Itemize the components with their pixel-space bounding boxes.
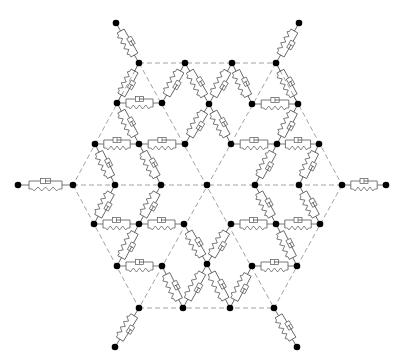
lattice-node [70, 182, 77, 189]
spring-dashpot-element [204, 101, 237, 147]
spring-icon [231, 72, 247, 98]
dashpot-icon [213, 270, 231, 299]
spring-icon [93, 190, 109, 215]
spring-dashpot-element [202, 261, 236, 311]
spring-icon [240, 146, 268, 150]
spring-icon [138, 190, 155, 215]
spring-dashpot-element [231, 138, 277, 151]
spring-icon [208, 113, 225, 139]
lattice-node [294, 344, 301, 351]
spring-dashpot-element [178, 261, 213, 311]
dashpot-icon [126, 97, 153, 102]
lattice-node [317, 221, 324, 228]
spring-dashpot-element [117, 97, 162, 110]
spring-icon [29, 187, 62, 191]
lattice-node [159, 263, 166, 270]
lattice-node [113, 20, 120, 27]
spring-dashpot-element [269, 305, 303, 350]
lattice-line [276, 63, 342, 185]
spring-dashpot-element [252, 98, 298, 111]
lattice-node [181, 221, 188, 228]
lattice-node [136, 60, 143, 67]
spring-icon [261, 106, 289, 110]
spring-dashpot-element [225, 263, 258, 311]
dashpot-icon [145, 194, 163, 220]
lattice-node [383, 182, 390, 189]
lattice-node [114, 263, 121, 270]
dashpot-icon [351, 179, 377, 184]
spring-dashpot-element [342, 179, 386, 192]
spring-dashpot-element [139, 138, 185, 151]
lattice-node [228, 141, 235, 148]
spring-dashpot-element [204, 60, 238, 107]
dashpot-icon [285, 218, 311, 223]
spring-dashpot-element [271, 20, 305, 66]
spring-dashpot-element [95, 138, 139, 151]
lattice-node [136, 305, 143, 312]
spring-dashpot-element [180, 101, 215, 147]
dashpot-icon [285, 138, 310, 143]
dashpot-icon [305, 190, 322, 216]
dashpot-icon [29, 179, 62, 184]
lattice-node [274, 141, 281, 148]
lattice-node [273, 60, 280, 67]
spring-icon [126, 268, 153, 272]
dashpot-icon [123, 233, 141, 261]
dashpot-icon [145, 149, 163, 176]
spring-icon [285, 146, 310, 150]
spring-icon [94, 153, 110, 179]
dashpot-icon [148, 138, 176, 143]
spring-dashpot-element [117, 260, 162, 273]
spring-dashpot-element [94, 218, 139, 231]
dashpot-icon [103, 218, 130, 223]
dashpot-icon [123, 108, 141, 135]
dashpot-icon [261, 98, 289, 103]
dashpot-icon [283, 113, 300, 139]
lattice-line [73, 63, 139, 185]
dashpot-icon [148, 218, 175, 223]
dashpot-icon [168, 72, 186, 98]
spring-icon [276, 109, 292, 135]
dashpot-icon [282, 68, 300, 95]
lattice-node [158, 182, 165, 189]
dashpot-icon [191, 113, 210, 140]
lattice-node [91, 221, 98, 228]
lattice-node [229, 60, 236, 67]
dashpot-icon [282, 32, 300, 58]
spring-dashpot-element [231, 218, 276, 231]
lattice-node [228, 221, 235, 228]
lattice-node [15, 182, 22, 189]
lattice-node [339, 182, 346, 189]
spring-dashpot-element [111, 20, 145, 66]
spring-icon [148, 146, 176, 150]
lattice-node [294, 263, 301, 270]
lattice-node [182, 141, 189, 148]
spring-icon [116, 68, 133, 94]
lattice-node [112, 182, 119, 189]
lattice-node [316, 141, 323, 148]
lattice-node [159, 100, 166, 107]
spring-dashpot-element [277, 138, 319, 151]
spring-icon [254, 194, 270, 219]
spring-dashpot-element [157, 263, 189, 311]
spring-icon [103, 226, 130, 230]
dashpot-icon [215, 109, 233, 135]
dashpot-icon [126, 260, 153, 265]
lattice-node [273, 221, 280, 228]
dashpot-icon [190, 229, 208, 255]
dashpot-icon [121, 317, 140, 343]
lattice-node [136, 221, 143, 228]
lattice-node [252, 182, 259, 189]
spring-icon [104, 146, 130, 150]
lattice-node [204, 261, 211, 268]
lattice-node [296, 20, 303, 27]
spring-dashpot-element [202, 221, 237, 267]
lattice-node [204, 182, 211, 189]
lattice-node [249, 263, 256, 270]
lattice-node [92, 141, 99, 148]
dashpot-icon [236, 275, 254, 303]
spring-icon [285, 226, 311, 230]
lattice-node [206, 101, 213, 108]
spring-dashpot-element [180, 60, 215, 107]
dashpot-icon [261, 260, 288, 265]
